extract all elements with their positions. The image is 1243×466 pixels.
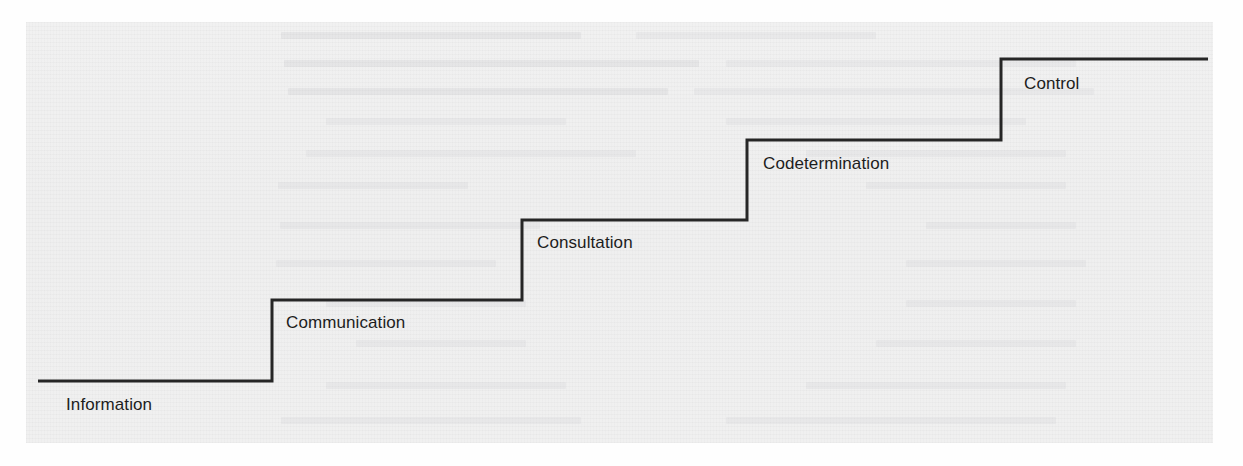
ghost-text-line <box>876 340 1076 347</box>
ghost-text-line <box>276 260 496 267</box>
ghost-text-line <box>356 340 526 347</box>
ghost-text-line <box>866 182 1066 189</box>
ghost-text-line <box>926 222 1076 229</box>
ghost-text-line <box>306 150 636 157</box>
step-label-codetermination: Codetermination <box>763 155 889 173</box>
step-label-communication: Communication <box>286 314 405 332</box>
ghost-text-line <box>726 118 1026 125</box>
ghost-text-line <box>636 32 876 39</box>
ghost-text-line <box>326 118 566 125</box>
step-label-control: Control <box>1024 75 1080 93</box>
ghost-text-line <box>278 182 468 189</box>
ghost-text-line <box>288 88 668 95</box>
ghost-text-line <box>280 222 540 229</box>
step-label-information: Information <box>66 396 152 414</box>
ghost-text-line <box>281 32 581 39</box>
ghost-text-line <box>726 417 1056 424</box>
ghost-text-line <box>281 417 581 424</box>
ghost-text-line <box>284 60 699 67</box>
step-label-consultation: Consultation <box>537 234 633 252</box>
scanned-page: Information Communication Consultation C… <box>0 0 1243 466</box>
ghost-text-line <box>726 60 1076 67</box>
ghost-text-line <box>906 260 1086 267</box>
ghost-text-line <box>806 382 1066 389</box>
ghost-text-line <box>906 300 1076 307</box>
ghost-text-line <box>326 382 566 389</box>
ghost-text-line <box>326 300 526 307</box>
